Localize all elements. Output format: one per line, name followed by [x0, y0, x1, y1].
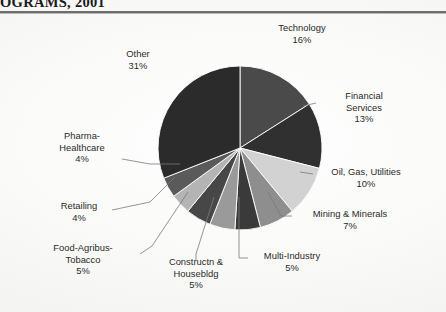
pie-slice-group [158, 66, 322, 230]
pie-label-technology-name: Technology [248, 22, 356, 34]
pie-label-financial-services: Financial Services 13% [316, 90, 412, 125]
pie-label-pharma-name: Pharma- [42, 130, 122, 142]
pie-label-construction-housebuilding: Constructn & Housebldg 5% [144, 256, 248, 291]
pie-label-food-value: 5% [28, 265, 138, 277]
pie-chart-figure: Technology 16% Financial Services 13% Oi… [0, 14, 446, 312]
document-page: OGRAMS, 2001 [0, 0, 446, 312]
pie-label-mining-minerals: Mining & Minerals 7% [290, 208, 410, 231]
pie-label-retailing-value: 4% [42, 212, 116, 224]
pie-label-financial-services-name: Financial [316, 90, 412, 102]
pie-label-pharma-value: 4% [42, 153, 122, 165]
pie-label-mining-minerals-name: Mining & Minerals [290, 208, 410, 220]
pie-label-other-name: Other [108, 48, 168, 60]
pie-label-technology-value: 16% [248, 34, 356, 46]
pie-label-technology: Technology 16% [248, 22, 356, 45]
pie-label-construction-value: 5% [144, 279, 248, 291]
pie-label-multi-industry-value: 5% [246, 262, 338, 274]
pie-label-retailing-name: Retailing [42, 200, 116, 212]
pie-label-pharma-name2: Healthcare [42, 142, 122, 154]
pie-label-financial-services-name2: Services [316, 102, 412, 114]
pie-label-oil-gas-utilities-name: Oil, Gas, Utilities [308, 166, 424, 178]
page-header-title: OGRAMS, 2001 [0, 0, 105, 11]
pie-label-food-name2: Tobacco [28, 254, 138, 266]
pie-label-oil-gas-utilities: Oil, Gas, Utilities 10% [308, 166, 424, 189]
pie-label-other: Other 31% [108, 48, 168, 71]
pie-label-food-name: Food-Agribus- [28, 242, 138, 254]
pie-label-financial-services-value: 13% [316, 113, 412, 125]
pie-label-construction-name: Constructn & [144, 256, 248, 268]
pie-label-construction-name2: Housebldg [144, 268, 248, 280]
pie-label-oil-gas-utilities-value: 10% [308, 178, 424, 190]
pie-label-multi-industry: Multi-Industry 5% [246, 250, 338, 273]
pie-label-food-agribusiness-tobacco: Food-Agribus- Tobacco 5% [28, 242, 138, 277]
pie-label-pharma-healthcare: Pharma- Healthcare 4% [42, 130, 122, 165]
pie-label-retailing: Retailing 4% [42, 200, 116, 223]
pie-label-mining-minerals-value: 7% [290, 220, 410, 232]
pie-label-other-value: 31% [108, 60, 168, 72]
pie-label-multi-industry-name: Multi-Industry [246, 250, 338, 262]
